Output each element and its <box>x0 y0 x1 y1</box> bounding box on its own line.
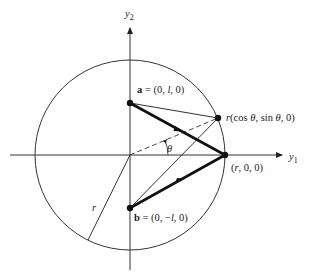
y2-axis-label: y2 <box>124 8 134 22</box>
point-b <box>127 205 133 211</box>
theta-label: θ <box>167 143 172 154</box>
label-b: b = (0, −l, 0) <box>134 212 188 224</box>
label-rotated-point: r(cos θ, sin θ, 0) <box>226 112 295 124</box>
diagram-canvas: y2 y1 a = (0, l, 0) b = (0, −l, 0) r(cos… <box>0 0 309 272</box>
point-a <box>127 100 133 106</box>
direction-arrow-2 <box>175 178 183 184</box>
point-rotated <box>215 115 221 121</box>
label-r-axis-point: (r, 0, 0) <box>231 162 264 174</box>
point-r-axis <box>222 152 228 158</box>
direction-arrow-1 <box>174 126 184 132</box>
y1-axis-label: y1 <box>288 151 298 165</box>
label-a: a = (0, l, 0) <box>137 84 185 96</box>
dashed-rotated-radius <box>130 118 218 155</box>
line-b-to-rotated <box>130 118 218 208</box>
radius-line <box>88 155 130 240</box>
radius-label: r <box>92 202 97 213</box>
